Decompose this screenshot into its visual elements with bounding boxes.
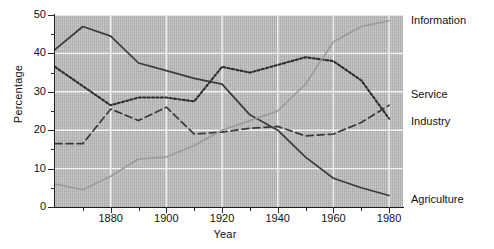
x-tick-mark xyxy=(389,207,390,213)
x-minor-tick-mark xyxy=(361,207,362,211)
x-tick-label: 1920 xyxy=(202,212,242,224)
x-tick-label: 1900 xyxy=(146,212,186,224)
y-tick-mark xyxy=(48,169,55,170)
legend-label-agriculture: Agriculture xyxy=(411,193,464,205)
x-minor-tick-mark xyxy=(194,207,195,211)
series-lines xyxy=(55,15,403,207)
x-tick-label: 1940 xyxy=(258,212,298,224)
x-minor-tick-mark xyxy=(250,207,251,211)
x-minor-tick-mark xyxy=(83,207,84,211)
x-axis-title: Year xyxy=(185,228,265,240)
y-tick-mark xyxy=(48,130,55,131)
y-tick-label: 10 xyxy=(20,162,46,174)
y-tick-label: 30 xyxy=(20,85,46,97)
x-tick-label: 1980 xyxy=(369,212,409,224)
y-tick-mark xyxy=(48,15,55,16)
x-minor-tick-mark xyxy=(139,207,140,211)
legend-label-information: Information xyxy=(411,14,466,26)
y-tick-mark xyxy=(48,207,55,208)
x-axis-line xyxy=(54,207,404,208)
x-tick-mark xyxy=(333,207,334,213)
x-tick-mark xyxy=(222,207,223,213)
plot-area xyxy=(55,15,403,207)
y-tick-label: 40 xyxy=(20,46,46,58)
y-tick-mark xyxy=(48,53,55,54)
x-tick-mark xyxy=(166,207,167,213)
x-tick-mark xyxy=(111,207,112,213)
y-tick-label: 20 xyxy=(20,123,46,135)
legend-label-service: Service xyxy=(411,88,448,100)
legend-label-industry: Industry xyxy=(411,115,450,127)
y-tick-mark xyxy=(48,92,55,93)
line-chart: Percentage Year 01020304050 188019001920… xyxy=(0,0,494,249)
x-tick-label: 1960 xyxy=(313,212,353,224)
x-tick-mark xyxy=(278,207,279,213)
y-tick-label: 0 xyxy=(20,200,46,212)
x-tick-label: 1880 xyxy=(91,212,131,224)
y-tick-label: 50 xyxy=(20,8,46,20)
x-minor-tick-mark xyxy=(306,207,307,211)
